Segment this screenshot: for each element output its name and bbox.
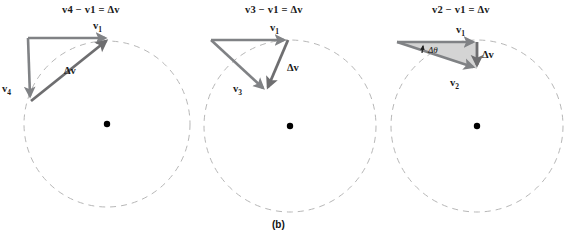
panel-1-equation: v4 − v1 = Δv	[62, 5, 120, 16]
panel-3-eq-result: Δv	[478, 4, 490, 15]
panel-2-center-dot	[287, 123, 293, 129]
panel-1-label-v1-sub: 1	[98, 25, 102, 34]
figure-canvas	[0, 0, 566, 237]
panel-2-label-delta-v: Δv	[287, 63, 299, 74]
velocity-difference-figure: v4 − v1 = Δv v1 v4 Δv v3 − v1 = Δv v1 v3…	[0, 0, 566, 237]
panel-1-graphics	[24, 38, 190, 207]
panel-2-eq-term2-sub: 1	[273, 4, 278, 15]
panel-2-eq-operator: −	[259, 4, 265, 15]
panel-3-eq-equals: =	[468, 4, 474, 15]
panel-1-eq-term2-sub: 1	[90, 4, 95, 15]
panel-1-label-delta-v: Δv	[64, 66, 76, 77]
panel-2-label-v1-sub: 1	[275, 27, 279, 36]
panel-3-eq-operator: −	[446, 4, 452, 15]
panel-3-graphics	[391, 40, 563, 212]
panel-1-eq-term1-sub: 4	[67, 4, 72, 15]
panel-1-eq-equals: =	[98, 4, 104, 15]
panel-2-eq-equals: =	[281, 4, 287, 15]
panel-1-center-dot	[104, 121, 110, 127]
panel-2-eq-result: Δv	[291, 4, 303, 15]
panel-3-label-v1: v1	[456, 25, 465, 38]
figure-caption: (b)	[272, 219, 285, 230]
panel-2-vector-delta-v	[268, 40, 288, 87]
panel-1-eq-result: Δv	[108, 4, 120, 15]
panel-1-eq-operator: −	[76, 4, 82, 15]
panel-1-vector-v4	[28, 38, 30, 96]
panel-2-label-v3-sub: 3	[238, 88, 242, 97]
panel-3-label-delta-theta: Δθ	[428, 46, 438, 55]
panel-3-equation: v2 − v1 = Δv	[432, 5, 490, 16]
panel-3-eq-term1-sub: 2	[437, 4, 442, 15]
panel-3-eq-term2-sub: 1	[460, 4, 465, 15]
panel-1-label-v4: v4	[2, 84, 11, 97]
panel-3-label-v1-sub: 1	[461, 29, 465, 38]
panel-2-eq-term1-sub: 3	[250, 4, 255, 15]
panel-3-label-v2-sub: 2	[455, 82, 459, 91]
panel-3-label-v2: v2	[450, 78, 459, 91]
panel-1-label-v4-sub: 4	[7, 88, 11, 97]
panel-2-label-v3: v3	[233, 84, 242, 97]
panel-3-label-delta-v: Δv	[482, 50, 494, 61]
panel-2-label-v1: v1	[270, 23, 279, 36]
panel-2-equation: v3 − v1 = Δv	[245, 5, 303, 16]
panel-3-center-dot	[474, 123, 480, 129]
panel-1-label-v1: v1	[93, 21, 102, 34]
